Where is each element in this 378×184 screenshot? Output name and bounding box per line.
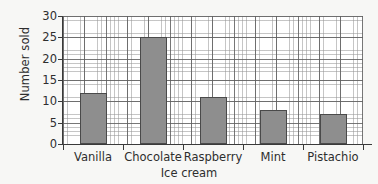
x-tick-label: Mint [261,150,286,164]
y-tick-label: 20 [17,52,63,66]
x-tick-label: Pistachio [307,150,358,164]
x-tick-label: Chocolate [124,150,182,164]
x-tick-label: Vanilla [74,150,112,164]
x-tick-label: Raspberry [184,150,243,164]
bar [140,37,167,144]
y-tick-label: 10 [17,94,63,108]
bar [260,110,287,144]
y-tick-label: 5 [17,116,63,130]
x-tick-mark [303,145,304,150]
y-tick-label: 25 [17,30,63,44]
bar-chart: Number sold 051015202530 VanillaChocolat… [0,0,378,184]
x-axis-line [62,144,372,145]
x-tick-mark [243,145,244,150]
bar [200,97,227,144]
bar [80,93,107,144]
x-axis-title: Ice cream [0,166,378,180]
y-tick-label: 15 [17,73,63,87]
x-tick-mark [363,145,364,150]
y-tick-label: 0 [17,137,63,151]
x-tick-mark [63,145,64,150]
bar [320,114,347,144]
y-tick-label: 30 [17,9,63,23]
plot-area [63,16,363,144]
